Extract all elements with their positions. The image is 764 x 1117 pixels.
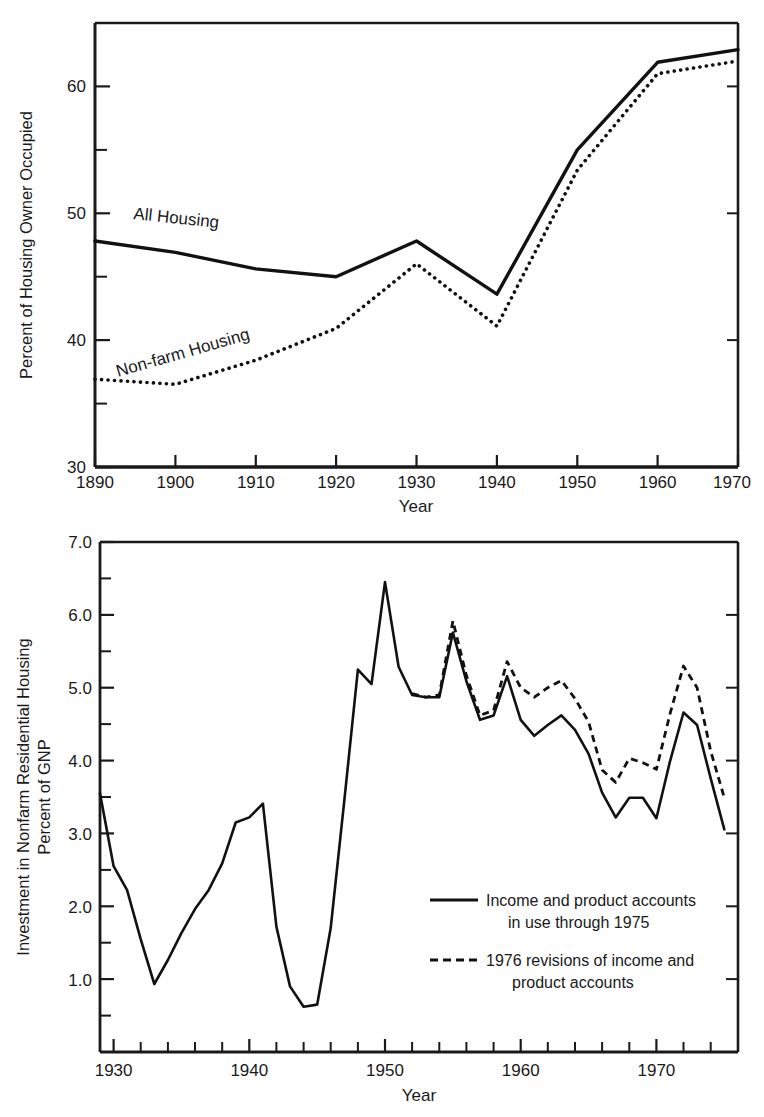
- y-ticklabel-4-0: 4.0: [68, 752, 92, 771]
- x-ticklabel-1920: 1920: [317, 473, 355, 492]
- y-axis-right-ticks: [726, 615, 738, 979]
- legend-label-2-line2: product accounts: [512, 974, 634, 991]
- y-axis-title: Percent of Housing Owner Occupied: [17, 111, 35, 379]
- y-ticklabel-1-0: 1.0: [68, 971, 92, 990]
- series-all-housing: [95, 50, 738, 295]
- x-ticklabel-1890: 1890: [76, 473, 114, 492]
- y-axis-title-line2: Percent of GNP: [35, 739, 53, 855]
- y-ticklabel-2-0: 2.0: [68, 898, 92, 917]
- annotation-all-housing: All Housing: [133, 204, 221, 232]
- y-ticklabel-5-0: 5.0: [68, 679, 92, 698]
- x-ticklabel-1970: 1970: [713, 473, 751, 492]
- x-ticklabel-1930: 1930: [398, 473, 436, 492]
- y-axis-right-ticks: [727, 86, 738, 340]
- x-ticklabel-1950: 1950: [366, 1061, 404, 1080]
- y-ticklabel-60: 60: [67, 77, 86, 96]
- legend-label-1-line1: Income and product accounts: [486, 892, 696, 909]
- chart-nonfarm-residential-investment: 7.0 6.0 5.0 4.0 3.0 2.0 1.0: [0, 520, 764, 1117]
- y-axis-title-line1: Investment in Nonfarm Residential Housin…: [14, 638, 32, 955]
- figure-container: 60 50 40 30 1890 1900 1910 1920 1930: [0, 0, 764, 1117]
- y-axis-ticks: [100, 542, 114, 1016]
- y-ticklabel-7-0: 7.0: [68, 533, 92, 552]
- chart-owner-occupied-housing: 60 50 40 30 1890 1900 1910 1920 1930: [0, 0, 764, 520]
- x-ticklabel-1970: 1970: [637, 1061, 675, 1080]
- x-ticklabel-1940: 1940: [478, 473, 516, 492]
- y-ticklabel-50: 50: [67, 204, 86, 223]
- x-ticklabel-1940: 1940: [230, 1061, 268, 1080]
- x-ticklabel-1930: 1930: [95, 1061, 133, 1080]
- legend-label-1-line2: in use through 1975: [508, 914, 650, 931]
- chart-bottom-svg: 7.0 6.0 5.0 4.0 3.0 2.0 1.0: [0, 520, 764, 1117]
- legend: Income and product accounts in use throu…: [430, 892, 696, 991]
- x-axis-title: Year: [399, 497, 434, 516]
- x-ticklabel-1910: 1910: [237, 473, 275, 492]
- x-ticklabel-1960: 1960: [502, 1061, 540, 1080]
- y-axis-ticks: [95, 86, 110, 467]
- x-axis-title: Year: [402, 1086, 437, 1105]
- y-ticklabel-3-0: 3.0: [68, 825, 92, 844]
- annotation-nonfarm-housing: Non-farm Housing: [114, 325, 252, 381]
- legend-label-2-line1: 1976 revisions of income and: [486, 952, 694, 969]
- x-ticklabel-1950: 1950: [558, 473, 596, 492]
- series-income-product-accounts-1975: [100, 582, 724, 1007]
- x-axis-ticks: [95, 455, 738, 467]
- x-ticklabel-1960: 1960: [639, 473, 677, 492]
- x-axis-ticks: [114, 1039, 711, 1052]
- y-ticklabel-40: 40: [67, 331, 86, 350]
- series-1976-revisions: [412, 621, 724, 798]
- x-ticklabel-1900: 1900: [156, 473, 194, 492]
- chart-top-svg: 60 50 40 30 1890 1900 1910 1920 1930: [0, 0, 764, 520]
- y-ticklabel-6-0: 6.0: [68, 606, 92, 625]
